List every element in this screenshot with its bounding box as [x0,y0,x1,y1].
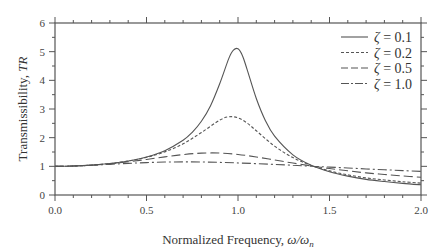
x-axis-label-subscript: n [309,239,314,249]
x-tick-label: 0.5 [140,204,154,216]
x-tick-label: 1.5 [323,204,337,216]
y-axis-label: Transmissibility, TR [15,57,30,162]
legend-label-2: ζ = 0.5 [374,61,412,76]
x-tick-label: 0.0 [48,204,62,216]
y-tick-label: 6 [40,17,46,29]
legend-label-3: ζ = 1.0 [374,77,412,92]
x-axis-label: Normalized Frequency, ω/ωn [162,232,314,249]
y-tick-label: 0 [40,189,46,201]
curves [55,48,421,184]
series-line-2 [55,153,421,177]
y-tick-label: 1 [40,160,46,172]
y-tick-label: 4 [40,74,46,86]
axis-tick-labels: 0.00.51.01.52.00123456 [40,17,429,216]
x-tick-label: 1.0 [231,204,245,216]
legend: ζ = 0.1ζ = 0.2ζ = 0.5ζ = 1.0 [341,30,412,92]
y-axis-label-math: TR [15,57,30,72]
legend-label-0: ζ = 0.1 [374,30,412,45]
y-tick-label: 3 [40,103,46,115]
legend-label-1: ζ = 0.2 [374,46,412,61]
x-axis-label-math: ω/ω [287,232,309,247]
y-tick-label: 5 [40,46,46,58]
y-tick-label: 2 [40,132,46,144]
x-tick-label: 2.0 [414,204,428,216]
transmissibility-chart: 0.00.51.01.52.00123456 ζ = 0.1ζ = 0.2ζ =… [0,0,443,249]
